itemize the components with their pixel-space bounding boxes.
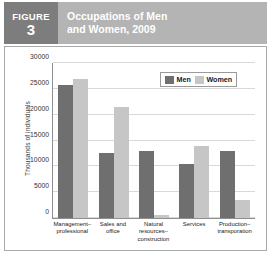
- figure-container: FIGURE 3 Occupations of Men and Women, 2…: [0, 0, 271, 254]
- bar-group: [53, 63, 93, 218]
- x-axis-tick-label: Services: [174, 221, 215, 243]
- figure-title: Occupations of Men and Women, 2009: [58, 2, 267, 44]
- figure-title-line-1: Occupations of Men: [67, 10, 267, 23]
- y-axis-tick-label: 15000: [30, 130, 49, 137]
- y-axis-tick-label: 5000: [34, 182, 49, 189]
- figure-word-label: FIGURE: [12, 11, 50, 22]
- y-axis-tick-label: 20000: [30, 104, 49, 111]
- x-axis-tick-label: Production–transporation: [214, 221, 255, 243]
- figure-banner: FIGURE 3 Occupations of Men and Women, 2…: [4, 2, 267, 44]
- y-axis-tick-label: 30000: [30, 53, 49, 60]
- bar-men[interactable]: [58, 85, 73, 218]
- x-axis-tick-label: Sales andoffice: [93, 221, 134, 243]
- bar-men[interactable]: [220, 151, 235, 218]
- bar-women[interactable]: [235, 200, 250, 218]
- legend-item-women: Women: [195, 75, 232, 84]
- bar-group: [93, 63, 133, 218]
- chart-legend: Men Women: [160, 72, 237, 87]
- bar-men[interactable]: [99, 153, 114, 218]
- legend-item-men: Men: [165, 75, 191, 84]
- y-axis-tick-label: 0: [45, 208, 49, 215]
- bar-women[interactable]: [194, 146, 209, 218]
- legend-swatch-men-icon: [165, 76, 174, 84]
- bar-women[interactable]: [114, 107, 129, 218]
- bar-women[interactable]: [154, 215, 169, 218]
- legend-label-men: Men: [177, 75, 191, 84]
- figure-title-line-2: and Women, 2009: [67, 23, 267, 36]
- y-axis-tick-label: 25000: [30, 78, 49, 85]
- bar-women[interactable]: [73, 79, 88, 219]
- legend-label-women: Women: [206, 75, 232, 84]
- x-axis-tick-label: Management–professional: [52, 221, 93, 243]
- x-axis-tick-label: Natural resources–construction: [133, 221, 174, 243]
- figure-number-tag: FIGURE 3: [4, 2, 58, 44]
- bar-men[interactable]: [139, 151, 154, 218]
- x-axis-labels: Management–professionalSales andofficeNa…: [52, 221, 255, 243]
- y-axis-title: Thousands of individuals: [24, 80, 31, 198]
- figure-number-label: 3: [27, 22, 35, 37]
- bar-men[interactable]: [179, 164, 194, 218]
- legend-swatch-women-icon: [195, 76, 204, 84]
- y-axis-tick-label: 10000: [30, 156, 49, 163]
- chart-frame: Thousands of individuals 050001000015000…: [4, 46, 267, 251]
